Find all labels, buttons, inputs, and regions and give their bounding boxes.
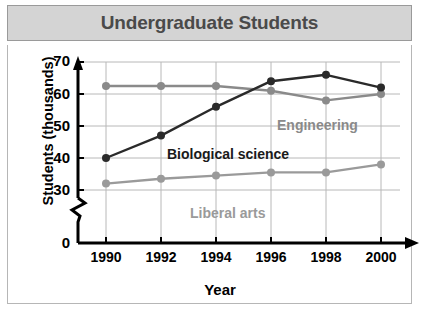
plot-area: 70 60 50 40 30 0 1990 1992 1994 1996 199… <box>0 0 425 311</box>
series-label-engineering: Engineering <box>277 117 358 133</box>
chart-figure: Undergraduate Students Students (thousan… <box>0 0 425 311</box>
y-tick-70: 70 <box>42 53 70 68</box>
y-tick-60: 60 <box>42 86 70 101</box>
x-axis-title: Year <box>175 281 265 298</box>
series-label-liberal-arts: Liberal arts <box>190 205 265 221</box>
x-tick-1994: 1994 <box>191 249 241 265</box>
x-tick-1990: 1990 <box>81 249 131 265</box>
y-tick-0: 0 <box>42 235 70 250</box>
y-tick-40: 40 <box>42 150 70 165</box>
x-tick-1996: 1996 <box>246 249 296 265</box>
x-tick-2000: 2000 <box>356 249 406 265</box>
x-tick-1992: 1992 <box>136 249 186 265</box>
series-label-biological: Biological science <box>167 146 289 162</box>
y-tick-30: 30 <box>42 182 70 197</box>
y-tick-50: 50 <box>42 118 70 133</box>
x-tick-1998: 1998 <box>301 249 351 265</box>
